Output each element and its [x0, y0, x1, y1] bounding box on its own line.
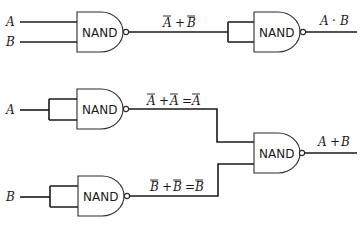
svg-text:A: A — [317, 135, 327, 149]
nand-gate-1: NAND — [77, 12, 129, 52]
input-a-label: A — [5, 15, 15, 29]
gate-label: NAND — [82, 103, 117, 117]
svg-text:A: A — [162, 16, 172, 30]
svg-text:+: + — [159, 94, 169, 108]
svg-text:B: B — [339, 14, 349, 28]
and-circuit: A B NAND A + B NAND — [5, 12, 357, 52]
wire-split-b — [50, 186, 78, 207]
svg-text:B: B — [340, 135, 350, 149]
svg-text:=: = — [185, 180, 195, 194]
svg-text:B: B — [186, 16, 196, 30]
wire-split-a — [49, 99, 77, 120]
svg-text:A: A — [169, 94, 179, 108]
svg-text:·: · — [332, 14, 336, 28]
svg-text:B: B — [194, 180, 204, 194]
gate-label: NAND — [82, 26, 117, 40]
nand-gate-4: NAND — [78, 176, 130, 216]
nand-gate-5: NAND — [254, 133, 305, 173]
svg-text:A: A — [319, 14, 329, 28]
inversion-bubble — [123, 29, 128, 34]
gate-label: NAND — [259, 147, 294, 161]
label-a-and-b: A · B — [319, 14, 349, 28]
label-not-b-identity: B + B = B — [149, 180, 204, 194]
svg-text:A: A — [191, 94, 201, 108]
gate-label: NAND — [259, 26, 294, 40]
label-a-or-b: A + B — [317, 135, 350, 149]
svg-text:=: = — [182, 94, 192, 108]
or-circuit: A NAND A + A = A B NAND — [5, 89, 357, 216]
inversion-bubble — [124, 193, 129, 198]
input-b-label: B — [5, 35, 15, 49]
label-not-a-identity: A + A = A — [146, 94, 201, 108]
wire-split — [228, 22, 254, 42]
input-a-label: A — [5, 103, 15, 117]
inversion-bubble — [299, 150, 304, 155]
gate-label: NAND — [83, 190, 118, 204]
nand-equivalence-diagram: A B NAND A + B NAND — [0, 0, 362, 226]
inversion-bubble — [300, 29, 305, 34]
nand-gate-2: NAND — [254, 12, 306, 52]
svg-text:+: + — [330, 135, 340, 149]
svg-text:+: + — [175, 16, 185, 30]
input-b-label: B — [5, 190, 15, 204]
nand-gate-3: NAND — [77, 89, 129, 129]
wire-not-a — [129, 109, 254, 142]
svg-text:B: B — [172, 180, 182, 194]
svg-text:A: A — [146, 94, 156, 108]
svg-text:+: + — [162, 180, 172, 194]
label-not-a-plus-not-b: A + B — [162, 16, 196, 30]
inversion-bubble — [123, 106, 128, 111]
svg-text:B: B — [149, 180, 159, 194]
